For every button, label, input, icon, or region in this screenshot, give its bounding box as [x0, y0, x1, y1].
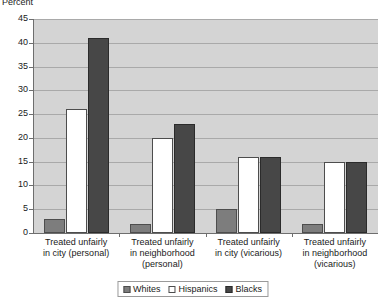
bar-blacks	[260, 157, 281, 233]
y-axis-tick-label: 35	[2, 62, 28, 71]
y-axis-tick-label: 45	[2, 14, 28, 23]
bar-blacks	[346, 162, 367, 233]
category-label-line: in neighborhood	[292, 248, 378, 259]
y-axis-tick-label: 10	[2, 180, 28, 189]
bar-hispanics	[66, 109, 87, 233]
category-label-line: (vicarious)	[292, 259, 378, 270]
bar-hispanics	[152, 138, 173, 233]
chart-legend: WhitesHispanicsBlacks	[117, 281, 268, 297]
y-axis-tick-label: 20	[2, 133, 28, 142]
legend-item-whites[interactable]: Whites	[123, 284, 161, 294]
y-axis-tick-labels: 454035302520151050	[0, 0, 28, 300]
y-axis-tick-mark	[29, 67, 33, 68]
legend-swatch-icon	[123, 286, 130, 293]
x-axis-category-label: Treated unfairlyin neighborhood(personal…	[119, 237, 205, 270]
bar-whites	[130, 224, 151, 234]
bar-group	[119, 19, 205, 233]
legend-label: Whites	[133, 284, 161, 294]
category-label-line: Treated unfairly	[33, 237, 119, 248]
category-label-line: in city (vicarious)	[206, 248, 292, 259]
bar-group	[292, 19, 378, 233]
y-axis-tick-mark	[29, 162, 33, 163]
category-label-line: (personal)	[119, 259, 205, 270]
legend-swatch-icon	[168, 286, 175, 293]
bars-layer	[33, 19, 378, 233]
legend-label: Hispanics	[178, 284, 217, 294]
y-axis-tick-mark	[29, 138, 33, 139]
bar-hispanics	[324, 162, 345, 233]
category-label-line: in city (personal)	[33, 248, 119, 259]
category-label-line: in neighborhood	[119, 248, 205, 259]
y-axis-tick-mark	[29, 233, 33, 234]
bar-whites	[302, 224, 323, 234]
bar-whites	[44, 219, 65, 233]
x-axis-category-label: Treated unfairlyin city (personal)	[33, 237, 119, 259]
y-axis-tick-label: 5	[2, 204, 28, 213]
y-axis-tick-label: 25	[2, 109, 28, 118]
y-axis-tick-label: 40	[2, 38, 28, 47]
bar-blacks	[88, 38, 109, 233]
legend-label: Blacks	[236, 284, 263, 294]
x-axis-category-label: Treated unfairlyin city (vicarious)	[206, 237, 292, 259]
bar-hispanics	[238, 157, 259, 233]
bar-group	[33, 19, 119, 233]
bar-chart: Percent 454035302520151050 Treated unfai…	[0, 0, 385, 300]
x-axis-category-labels: Treated unfairlyin city (personal)Treate…	[33, 237, 378, 275]
bar-whites	[216, 209, 237, 233]
legend-item-blacks[interactable]: Blacks	[226, 284, 263, 294]
x-axis-category-label: Treated unfairlyin neighborhood(vicariou…	[292, 237, 378, 270]
y-axis-tick-mark	[29, 185, 33, 186]
category-label-line: Treated unfairly	[119, 237, 205, 248]
legend-item-hispanics[interactable]: Hispanics	[168, 284, 217, 294]
y-axis-tick-mark	[29, 90, 33, 91]
y-axis-tick-mark	[29, 43, 33, 44]
y-axis-tick-mark	[29, 114, 33, 115]
y-axis-tick-mark	[29, 209, 33, 210]
y-axis-tick-label: 30	[2, 85, 28, 94]
y-axis-tick-label: 15	[2, 157, 28, 166]
bar-blacks	[174, 124, 195, 233]
category-label-line: Treated unfairly	[292, 237, 378, 248]
y-axis-tick-mark	[29, 19, 33, 20]
category-label-line: Treated unfairly	[206, 237, 292, 248]
bar-group	[206, 19, 292, 233]
y-axis-tick-label: 0	[2, 228, 28, 237]
legend-swatch-icon	[226, 286, 233, 293]
